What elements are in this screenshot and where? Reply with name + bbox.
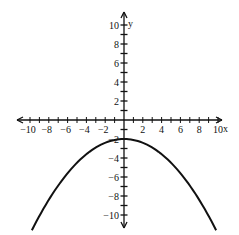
x-axis-label: x [223,123,228,134]
x-tick-label: 4 [159,124,164,135]
x-tick-label: −10 [20,124,36,135]
x-tick-label: −2 [98,124,109,135]
axes [17,12,222,228]
x-tick-label: 6 [178,124,183,135]
y-tick-label: −8 [108,191,119,202]
x-tick-label: 8 [197,124,202,135]
y-tick-label: −4 [108,153,119,164]
x-tick-label: −8 [41,124,52,135]
y-axis-label: y [128,18,133,29]
parabola-graph: −10−8−6−4−2246810108642−2−4−6−8−10 x y [0,0,239,235]
y-tick-label: 8 [114,39,119,50]
y-tick-label: 10 [109,20,119,31]
x-tick-label: −6 [60,124,71,135]
y-tick-label: 6 [114,58,119,69]
x-tick-label: 10 [213,124,223,135]
y-tick-label: −6 [108,172,119,183]
graph-canvas: −10−8−6−4−2246810108642−2−4−6−8−10 x y [0,0,239,235]
x-tick-label: 2 [140,124,145,135]
y-tick-label: −10 [103,210,119,221]
y-tick-label: 4 [114,77,119,88]
y-tick-label: 2 [114,96,119,107]
x-tick-label: −4 [79,124,90,135]
